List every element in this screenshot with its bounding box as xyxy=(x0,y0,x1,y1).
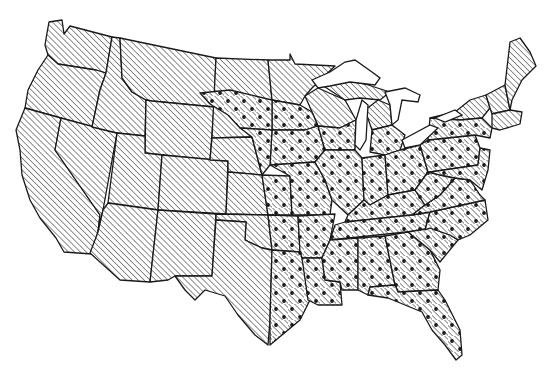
state-massachusetts-ct-ri xyxy=(492,110,522,130)
lake-michigan xyxy=(355,100,368,150)
state-colorado xyxy=(158,155,228,214)
state-maine xyxy=(505,38,536,110)
us-map xyxy=(0,0,548,375)
state-kansas-east xyxy=(262,175,292,215)
state-florida xyxy=(368,285,462,360)
state-new-mexico xyxy=(150,210,216,282)
state-kansas-west xyxy=(226,172,268,215)
state-oklahoma-east xyxy=(268,215,300,252)
state-wyoming xyxy=(145,100,214,160)
